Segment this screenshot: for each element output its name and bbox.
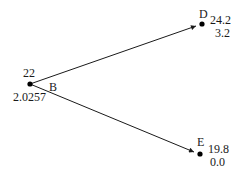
- node-d: [199, 21, 204, 26]
- node-d-bottom-value: 3.2: [215, 26, 230, 40]
- edge-b-to-e: [30, 84, 194, 152]
- node-e-label: E: [197, 135, 204, 149]
- node-b-top-value: 22: [23, 66, 35, 80]
- node-e: [197, 151, 202, 156]
- tree-diagram: 22 2.0257 B D 24.2 3.2 E 19.8 0.0: [0, 0, 239, 176]
- node-b-label: B: [49, 80, 57, 94]
- node-d-top-value: 24.2: [210, 13, 231, 27]
- edge-b-to-d: [30, 26, 196, 84]
- node-e-bottom-value: 0.0: [210, 155, 225, 169]
- node-b-bottom-value: 2.0257: [13, 90, 46, 104]
- node-b: [27, 81, 32, 86]
- node-e-top-value: 19.8: [208, 142, 229, 156]
- node-d-label: D: [199, 7, 208, 21]
